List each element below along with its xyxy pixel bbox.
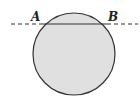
label-a: A — [30, 10, 40, 24]
diagram-canvas: A B — [0, 0, 140, 96]
circle — [33, 13, 115, 95]
label-b: B — [107, 10, 118, 24]
